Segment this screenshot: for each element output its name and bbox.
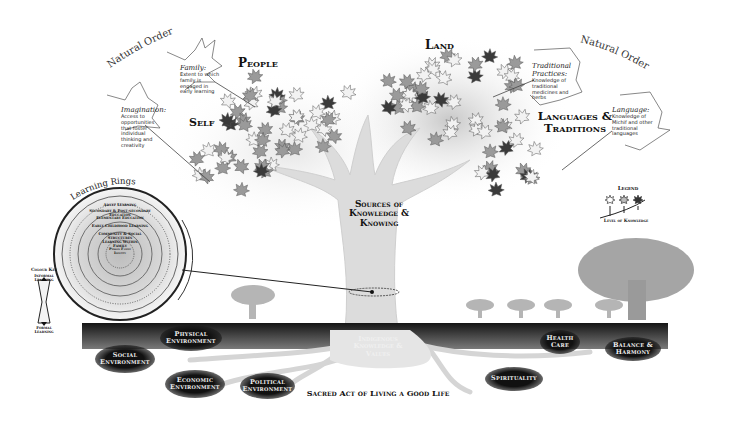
- legend-caption: Level of Knowledge: [596, 219, 656, 224]
- legend-graphic: [600, 195, 645, 218]
- colour-key-hourglass: [38, 277, 50, 326]
- legend-title: Legend: [603, 186, 653, 192]
- ring-label: Early Childhood Learning: [90, 224, 150, 228]
- self-heading: Self: [189, 117, 214, 129]
- colour-key-bottom: Formal Learning: [27, 326, 61, 334]
- background-trees: [231, 238, 694, 320]
- root-physical-environment: Physical Environment: [160, 325, 222, 351]
- land-heading: Land: [425, 39, 454, 52]
- colour-key-top: Informal Learning: [27, 274, 61, 282]
- ring-pointer-line: [182, 270, 372, 292]
- languages-traditions-heading: Languages & Traditions: [525, 110, 625, 134]
- root-balance-harmony: Balance & Harmony: [605, 337, 661, 361]
- callout-family-text: Extent to which family is engaged in ear…: [180, 71, 219, 94]
- sacred-heading: Sacred Act of Living a Good Life: [288, 389, 468, 397]
- sources-heading: Sources of Knowledge & Knowing: [344, 200, 414, 228]
- callout-traditional-practices-text: Knowledge of traditional medicines and h…: [532, 77, 569, 100]
- root-spirituality: Spirituality: [485, 367, 543, 391]
- ring-pointer-dot: [370, 290, 374, 294]
- ring-label-center: Person Family Identity: [108, 248, 132, 255]
- root-political-environment: Political Environment: [240, 373, 295, 399]
- root-social-environment: Social Environment: [95, 345, 155, 373]
- colour-key-title: Colour Key: [24, 268, 64, 273]
- people-heading: People: [238, 57, 278, 70]
- callout-language-text: Knowledge of Michif and other traditiona…: [612, 113, 653, 136]
- ring-label: Adult Learning: [96, 203, 144, 207]
- callout-traditional-practices-title: Traditional Practices:: [532, 62, 574, 78]
- callout-family: Family: Extent to which family is engage…: [180, 64, 220, 95]
- ring-label: Elementary Education: [88, 216, 152, 220]
- callout-imagination: Imagination: Access to opportunities tha…: [121, 106, 163, 149]
- callout-language: Language: Knowledge of Michif and other …: [612, 106, 654, 137]
- callout-traditional-practices: Traditional Practices: Knowledge of trad…: [532, 62, 574, 101]
- callout-imagination-text: Access to opportunities that foster indi…: [121, 113, 154, 148]
- natural-order-left-heading: Natural Order: [105, 25, 175, 69]
- root-economic-environment: Economic Environment: [165, 370, 225, 398]
- natural-order-right-heading: Natural Order: [580, 33, 652, 71]
- root-health-care: Health Care: [540, 330, 580, 354]
- indigenous-heading: Indigenous Knowledge & Values: [353, 335, 403, 357]
